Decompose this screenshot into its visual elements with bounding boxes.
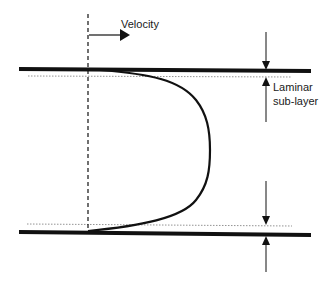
laminar-label-line2: sub-layer <box>273 95 319 107</box>
laminar-label-line1: Laminar <box>273 81 313 93</box>
top-sublayer-boundary <box>28 76 292 77</box>
top-wall <box>19 69 311 71</box>
bottom-sublayer-boundary <box>27 224 292 226</box>
velocity-label: Velocity <box>121 18 159 30</box>
bottom-wall <box>19 232 311 235</box>
bottom-dimension-arrows <box>262 181 270 272</box>
diagram-canvas: Velocity Laminar sub-layer <box>0 0 328 285</box>
velocity-profile-curve <box>88 70 210 231</box>
velocity-arrow <box>89 29 130 41</box>
